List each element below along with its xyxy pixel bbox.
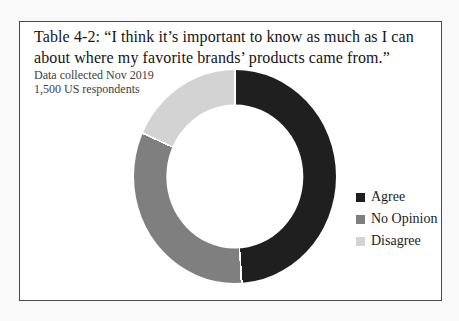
- donut-chart: [134, 70, 336, 283]
- legend-swatch-no-opinion: [356, 215, 365, 224]
- legend-item-agree: Agree: [356, 186, 438, 208]
- chart-legend: Agree No Opinion Disagree: [356, 186, 438, 252]
- legend-swatch-agree: [356, 193, 365, 202]
- chart-title-line-2: about where my favorite brands’ products…: [34, 47, 414, 68]
- legend-label-no-opinion: No Opinion: [371, 211, 438, 227]
- figure-frame: Table 4-2: “I think it’s important to kn…: [19, 21, 442, 301]
- legend-item-no-opinion: No Opinion: [356, 208, 438, 230]
- legend-swatch-disagree: [356, 237, 365, 246]
- donut-hole: [166, 104, 303, 249]
- chart-title: Table 4-2: “I think it’s important to kn…: [34, 26, 414, 68]
- legend-label-disagree: Disagree: [371, 233, 421, 249]
- legend-label-agree: Agree: [371, 189, 405, 205]
- figure-screenshot: Table 4-2: “I think it’s important to kn…: [0, 0, 459, 321]
- chart-subtitle-line-1: Data collected Nov 2019: [34, 68, 154, 82]
- chart-title-line-1: Table 4-2: “I think it’s important to kn…: [34, 26, 414, 47]
- chart-subtitle: Data collected Nov 2019 1,500 US respond…: [34, 68, 154, 96]
- chart-subtitle-line-2: 1,500 US respondents: [34, 82, 154, 96]
- legend-item-disagree: Disagree: [356, 230, 438, 252]
